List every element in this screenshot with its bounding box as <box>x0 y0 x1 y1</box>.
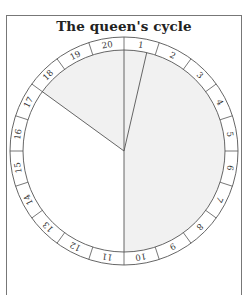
segment-label: 15 <box>12 162 24 174</box>
segment-label: 20 <box>101 39 113 51</box>
segment-label: 9 <box>168 241 177 252</box>
segment-divider <box>89 247 93 259</box>
segment-divider <box>183 59 191 70</box>
segment-label: 4 <box>214 98 225 107</box>
segment-label: 5 <box>225 131 236 138</box>
segment-divider <box>57 59 65 70</box>
segment-label: 3 <box>195 70 206 81</box>
segment-label: 1 <box>137 39 144 50</box>
segment-label: 8 <box>195 222 206 233</box>
segment-divider <box>206 84 217 92</box>
segment-divider <box>32 210 43 218</box>
segment-divider <box>155 43 159 55</box>
segment-label: 2 <box>168 50 177 61</box>
segment-label: 10 <box>135 251 147 263</box>
segment-divider <box>57 233 65 244</box>
segment-divider <box>206 210 217 218</box>
segment-divider <box>155 247 159 259</box>
shaded-sector <box>124 50 225 252</box>
segment-label: 13 <box>41 220 56 235</box>
segment-divider <box>220 116 232 120</box>
segment-divider <box>89 43 93 55</box>
segment-divider <box>32 84 43 92</box>
segment-divider <box>16 182 28 186</box>
segment-label: 7 <box>214 195 225 204</box>
segment-label: 16 <box>12 128 24 140</box>
segment-label: 6 <box>225 164 236 171</box>
segment-divider <box>16 116 28 120</box>
segment-divider <box>183 233 191 244</box>
segment-divider <box>220 182 232 186</box>
segment-label: 11 <box>101 251 113 263</box>
